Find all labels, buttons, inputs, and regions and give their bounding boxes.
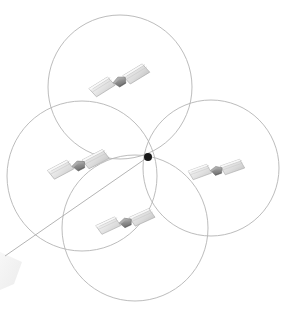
satellite-bottom [94, 208, 156, 235]
ground-wedge [0, 252, 22, 290]
link-line [5, 157, 148, 256]
orbit-circles [7, 15, 279, 301]
orbit-left [7, 101, 157, 251]
satellite-top [86, 63, 152, 99]
satellite-right [188, 159, 246, 180]
orbit-scene [0, 0, 297, 316]
orbit-bottom [62, 155, 208, 301]
common-node-point [144, 153, 152, 161]
satellite-left [46, 149, 112, 181]
orbit-diagram-canvas [0, 0, 297, 316]
orbit-right [143, 100, 279, 236]
